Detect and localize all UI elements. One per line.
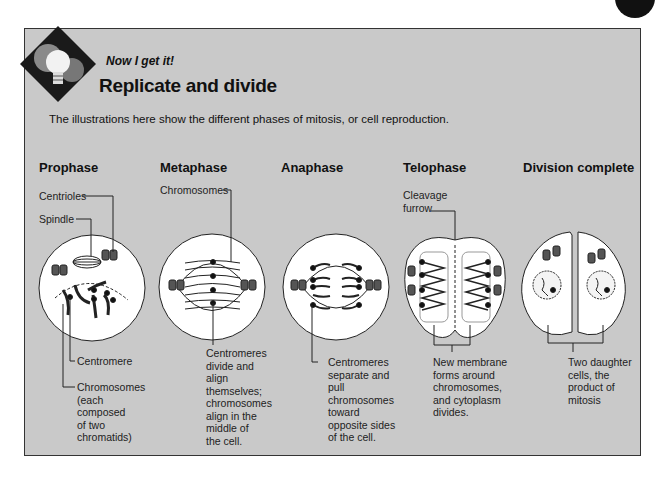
caption-metaphase: Centromeres divide and align themselves;…: [206, 347, 272, 447]
anaphase-cell: [283, 234, 389, 362]
caption-division-complete: Two daughter cells, the product of mitos…: [568, 356, 632, 406]
caption-anaphase: Centromeres separate and pull chromosome…: [328, 356, 395, 444]
caption-telophase: New membrane forms around chromosomes, a…: [433, 356, 507, 419]
label-spindle: Spindle: [39, 213, 74, 226]
metaphase-cell: [159, 190, 265, 345]
label-chromosomes-metaphase: Chromosomes: [160, 184, 228, 197]
label-chromosomes-prophase: Chromosomes (each composed of two chroma…: [77, 381, 145, 444]
telophase-cell: [405, 211, 506, 352]
daughter-cells: [522, 232, 626, 352]
label-centromere: Centromere: [77, 355, 132, 368]
label-centrioles: Centrioles: [39, 190, 86, 203]
label-cleavage-furrow: Cleavage furrow: [403, 189, 447, 214]
